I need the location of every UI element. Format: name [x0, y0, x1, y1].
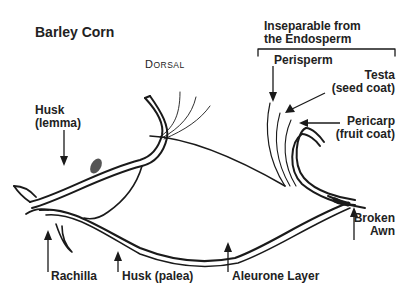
arrow-aleurone [224, 242, 232, 272]
label-testa-line2: (seed coat) [332, 82, 395, 95]
arrow-husk-palea [114, 251, 122, 272]
group-label-endosperm: Inseparable from the Endosperm [264, 20, 361, 46]
label-husk-lemma-line2: (lemma) [35, 117, 81, 130]
label-rachilla: Rachilla [51, 270, 97, 283]
arrow-perisperm [269, 66, 277, 102]
arrow-rachilla [44, 230, 52, 272]
group-label-line2: the Endosperm [264, 33, 361, 46]
label-pericarp: Pericarp (fruit coat) [336, 115, 395, 141]
diagram-title: Barley Corn [35, 26, 114, 39]
label-husk-lemma: Husk (lemma) [35, 104, 81, 130]
arrow-testa [285, 93, 325, 113]
label-aleurone-layer: Aleurone Layer [232, 270, 319, 283]
label-husk-palea: Husk (palea) [122, 270, 193, 283]
dorsal-label-rest: ORSAL [153, 60, 184, 70]
arrow-pericarp [299, 119, 340, 127]
label-broken-awn: Broken Awn [354, 212, 395, 238]
embryo-shape [84, 157, 142, 219]
label-broken-awn-line2: Awn [354, 225, 395, 238]
label-testa: Testa (seed coat) [332, 69, 395, 95]
dorsal-outline [150, 136, 285, 186]
arrow-husk-lemma [60, 130, 68, 166]
label-perisperm: Perisperm [274, 54, 333, 67]
label-pericarp-line2: (fruit coat) [336, 128, 395, 141]
dorsal-label: DORSAL [145, 58, 185, 72]
husk-palea-shape [40, 204, 350, 266]
